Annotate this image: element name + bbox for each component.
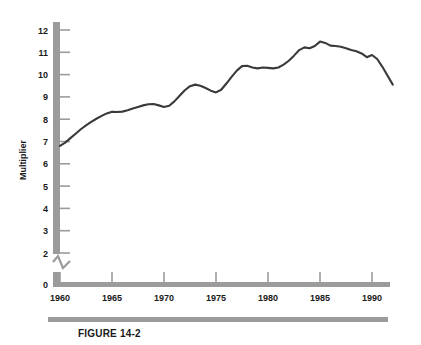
y-tick-label: 8 bbox=[43, 115, 48, 125]
x-tick-label: 1975 bbox=[206, 293, 226, 303]
y-tick-label: 4 bbox=[43, 204, 48, 214]
data-series-line bbox=[60, 42, 393, 146]
y-tick-label: 10 bbox=[38, 70, 48, 80]
x-tick-label: 1980 bbox=[258, 293, 278, 303]
x-tick-label: 1970 bbox=[154, 293, 174, 303]
y-tick-label: 5 bbox=[43, 182, 48, 192]
x-tick-label: 1985 bbox=[310, 293, 330, 303]
y-tick-label: 3 bbox=[43, 226, 48, 236]
y-axis-tick-labels: 12 11 10 9 8 7 6 5 4 3 2 0 bbox=[38, 26, 48, 291]
x-axis-bar bbox=[53, 282, 390, 287]
y-tick-label: 9 bbox=[43, 92, 48, 102]
figure-container: 12 11 10 9 8 7 6 5 4 3 2 0 1960 1965 bbox=[0, 0, 421, 345]
y-tick-label: 6 bbox=[43, 159, 48, 169]
x-axis-tick-labels: 1960 1965 1970 1975 1980 1985 1990 bbox=[50, 293, 382, 303]
y-tick-label: 7 bbox=[43, 137, 48, 147]
figure-caption: FIGURE 14-2 bbox=[78, 328, 141, 339]
x-axis-ticks bbox=[60, 272, 372, 282]
caption-rule-bar bbox=[48, 317, 388, 322]
y-tick-label: 12 bbox=[38, 26, 48, 36]
y-axis-bar bbox=[53, 22, 60, 254]
y-axis-title: Multiplier bbox=[18, 140, 28, 180]
chart-plot-area: 12 11 10 9 8 7 6 5 4 3 2 0 1960 1965 bbox=[0, 0, 421, 345]
y-axis-break-icon bbox=[53, 256, 70, 268]
x-tick-label: 1965 bbox=[102, 293, 122, 303]
x-tick-label: 1990 bbox=[362, 293, 382, 303]
y-tick-label: 0 bbox=[43, 280, 48, 290]
x-tick-label: 1960 bbox=[50, 293, 70, 303]
y-tick-label: 2 bbox=[43, 249, 48, 259]
y-tick-label: 11 bbox=[38, 48, 48, 58]
